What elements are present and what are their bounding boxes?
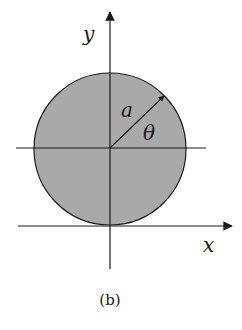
angle-label: θ (143, 121, 155, 145)
diagram-canvas: y x a θ (b) (0, 0, 242, 330)
radius-label: a (121, 98, 133, 122)
y-axis-label: y (82, 22, 95, 46)
figure-caption: (b) (99, 291, 120, 309)
x-axis-label: x (203, 233, 214, 257)
